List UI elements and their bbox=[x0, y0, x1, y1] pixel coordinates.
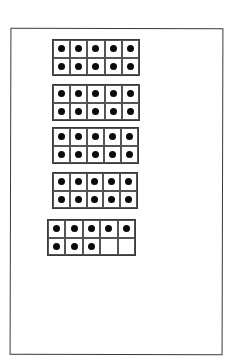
ten-frame-cell bbox=[53, 191, 70, 209]
counter-dot-icon bbox=[92, 108, 99, 115]
counter-dot-icon bbox=[91, 196, 98, 203]
ten-frame-cell bbox=[70, 103, 87, 121]
counter-dot-icon bbox=[58, 151, 65, 158]
counter-dot-icon bbox=[108, 196, 115, 203]
ten-frame-cell bbox=[53, 85, 70, 103]
ten-frame-cell bbox=[87, 191, 104, 209]
counter-dot-icon bbox=[53, 243, 60, 250]
ten-frame-cell bbox=[103, 191, 120, 209]
ten-frame-cell bbox=[105, 58, 122, 76]
ten-frame-cell bbox=[53, 173, 70, 191]
counter-dot-icon bbox=[126, 151, 133, 158]
ten-frame-cell bbox=[87, 146, 104, 164]
counter-dot-icon bbox=[58, 45, 65, 52]
counter-dot-icon bbox=[105, 225, 112, 232]
counter-dot-icon bbox=[108, 178, 115, 185]
counter-dot-icon bbox=[88, 225, 95, 232]
ten-frame-cell bbox=[48, 238, 65, 256]
counter-dot-icon bbox=[110, 63, 117, 70]
ten-frame-cell bbox=[105, 40, 122, 58]
counter-dot-icon bbox=[92, 133, 99, 140]
counter-dot-icon bbox=[58, 133, 65, 140]
ten-frame-cell bbox=[83, 220, 100, 238]
ten-frame-cell bbox=[65, 238, 82, 256]
ten-frame-5 bbox=[47, 219, 136, 256]
ten-frame-cell bbox=[104, 146, 121, 164]
counter-dot-icon bbox=[75, 133, 82, 140]
ten-frame-3 bbox=[52, 127, 139, 164]
counter-dot-icon bbox=[92, 45, 99, 52]
counter-dot-icon bbox=[92, 90, 99, 97]
ten-frame-cell bbox=[105, 103, 122, 121]
counter-dot-icon bbox=[127, 63, 134, 70]
counter-dot-icon bbox=[125, 178, 132, 185]
ten-frame-cell bbox=[100, 220, 117, 238]
ten-frame-cell bbox=[122, 103, 139, 121]
ten-frame-cell bbox=[105, 85, 122, 103]
ten-frame-cell bbox=[104, 128, 121, 146]
ten-frame-cell bbox=[65, 220, 82, 238]
counter-dot-icon bbox=[75, 108, 82, 115]
counter-dot-icon bbox=[109, 133, 116, 140]
ten-frame-cell bbox=[83, 238, 100, 256]
ten-frame-cell bbox=[53, 103, 70, 121]
counter-dot-icon bbox=[71, 243, 78, 250]
counter-dot-icon bbox=[75, 151, 82, 158]
ten-frame-cell bbox=[100, 238, 117, 256]
ten-frame-cell bbox=[70, 191, 87, 209]
ten-frame-cell bbox=[87, 58, 104, 76]
ten-frame-cell bbox=[70, 128, 87, 146]
ten-frame-cell bbox=[120, 191, 137, 209]
ten-frame-cell bbox=[87, 103, 104, 121]
ten-frame-cell bbox=[121, 146, 138, 164]
ten-frame-cell bbox=[122, 58, 139, 76]
counter-dot-icon bbox=[127, 108, 134, 115]
counter-dot-icon bbox=[58, 90, 65, 97]
counter-dot-icon bbox=[110, 90, 117, 97]
ten-frame-cell bbox=[122, 40, 139, 58]
ten-frame-cell bbox=[53, 128, 70, 146]
counter-dot-icon bbox=[92, 63, 99, 70]
counter-dot-icon bbox=[110, 45, 117, 52]
counter-dot-icon bbox=[125, 196, 132, 203]
counter-dot-icon bbox=[127, 90, 134, 97]
ten-frame-cell bbox=[70, 85, 87, 103]
ten-frame-cell bbox=[103, 173, 120, 191]
ten-frame-cell bbox=[70, 58, 87, 76]
counter-dot-icon bbox=[53, 225, 60, 232]
ten-frame-cell bbox=[53, 58, 70, 76]
ten-frame-cell bbox=[70, 146, 87, 164]
ten-frame-cell bbox=[122, 85, 139, 103]
ten-frame-cell bbox=[70, 173, 87, 191]
counter-dot-icon bbox=[109, 151, 116, 158]
counter-dot-icon bbox=[58, 63, 65, 70]
ten-frame-cell bbox=[120, 173, 137, 191]
counter-dot-icon bbox=[127, 45, 134, 52]
ten-frame-cell bbox=[118, 220, 135, 238]
counter-dot-icon bbox=[91, 178, 98, 185]
counter-dot-icon bbox=[58, 108, 65, 115]
ten-frame-cell bbox=[70, 40, 87, 58]
counter-dot-icon bbox=[92, 151, 99, 158]
ten-frame-cell bbox=[48, 220, 65, 238]
counter-dot-icon bbox=[123, 225, 130, 232]
ten-frame-cell bbox=[118, 238, 135, 256]
counter-dot-icon bbox=[126, 133, 133, 140]
counter-dot-icon bbox=[75, 196, 82, 203]
ten-frame-cell bbox=[87, 173, 104, 191]
ten-frame-4 bbox=[52, 172, 138, 209]
counter-dot-icon bbox=[58, 196, 65, 203]
ten-frame-cell bbox=[121, 128, 138, 146]
ten-frame-2 bbox=[52, 84, 140, 121]
counter-dot-icon bbox=[71, 225, 78, 232]
ten-frame-cell bbox=[87, 85, 104, 103]
counter-dot-icon bbox=[110, 108, 117, 115]
counter-dot-icon bbox=[58, 178, 65, 185]
ten-frame-cell bbox=[87, 40, 104, 58]
counter-dot-icon bbox=[75, 178, 82, 185]
ten-frame-cell bbox=[87, 128, 104, 146]
counter-dot-icon bbox=[75, 63, 82, 70]
counter-dot-icon bbox=[75, 45, 82, 52]
ten-frame-cell bbox=[53, 146, 70, 164]
counter-dot-icon bbox=[75, 90, 82, 97]
